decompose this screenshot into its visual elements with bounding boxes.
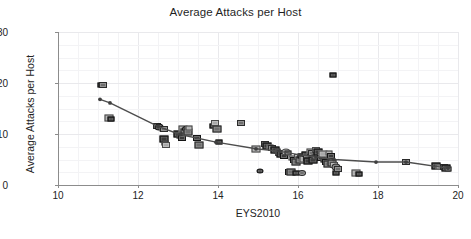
trend-node	[156, 124, 160, 128]
x-tickmark	[58, 185, 59, 188]
plot-area	[58, 32, 458, 185]
x-tick-label: 20	[438, 190, 471, 201]
trend-node	[278, 149, 282, 153]
trend-node	[98, 97, 102, 101]
trend-node	[214, 140, 218, 144]
trend-node	[298, 153, 302, 157]
y-tick-label: 0	[0, 180, 8, 191]
gridline-x-major	[458, 32, 459, 185]
y-tickmark	[55, 185, 58, 186]
x-tickmark	[138, 185, 139, 188]
x-tick-label: 10	[38, 190, 78, 201]
x-tick-label: 18	[358, 190, 398, 201]
x-tick-label: 16	[278, 190, 318, 201]
x-axis-line	[58, 185, 458, 186]
x-tickmark	[378, 185, 379, 188]
chart-figure: Average Attacks per Host Average Attacks…	[0, 0, 471, 239]
trend-node	[404, 160, 408, 164]
x-tickmark	[458, 185, 459, 188]
trend-node	[332, 158, 336, 162]
trend-node	[254, 147, 258, 151]
trend-node	[314, 155, 318, 159]
y-tick-label: 20	[0, 78, 8, 89]
y-axis-line	[58, 32, 59, 185]
x-tickmark	[218, 185, 219, 188]
y-tickmark	[55, 32, 58, 33]
y-tick-label: 10	[0, 129, 8, 140]
x-axis-label: EYS2010	[58, 207, 458, 219]
x-tick-label: 14	[198, 190, 238, 201]
y-tick-label: 30	[0, 27, 8, 38]
trend-line	[58, 32, 458, 185]
x-tick-label: 12	[118, 190, 158, 201]
y-tickmark	[55, 83, 58, 84]
x-tickmark	[298, 185, 299, 188]
y-tickmark	[55, 134, 58, 135]
trend-node	[446, 166, 450, 170]
trend-node	[374, 160, 378, 164]
y-axis-label: Average Attacks per Host	[24, 34, 36, 194]
trend-node	[108, 101, 112, 105]
chart-title: Average Attacks per Host	[0, 6, 471, 18]
trend-node	[178, 133, 182, 137]
